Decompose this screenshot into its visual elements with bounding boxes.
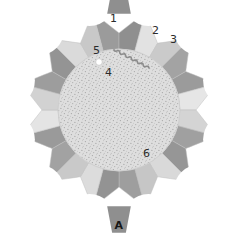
callout-3: 3	[170, 34, 177, 45]
callout-5: 5	[93, 45, 100, 56]
callout-6: 6	[143, 148, 150, 159]
scallop-notch-11	[12, 3, 64, 55]
figure-panel-a	[0, 0, 238, 239]
scallop-notch-3	[203, 54, 238, 106]
callout-1: 1	[110, 13, 117, 24]
scallop-notch-4	[203, 114, 238, 166]
scallop-notch-9	[0, 114, 35, 166]
speckled-inner-disc	[58, 49, 180, 171]
scallop-notch-6	[123, 194, 175, 239]
panel-letter: A	[0, 219, 238, 232]
callout-4: 4	[105, 67, 112, 78]
scallop-notch-2	[174, 3, 226, 55]
scallop-notch-8	[12, 165, 64, 217]
scallop-notch-10	[0, 54, 35, 106]
callout-2: 2	[152, 25, 159, 36]
scallop-notch-5	[174, 165, 226, 217]
scallop-notch-7	[63, 194, 115, 239]
white-marker-dot	[96, 59, 103, 66]
